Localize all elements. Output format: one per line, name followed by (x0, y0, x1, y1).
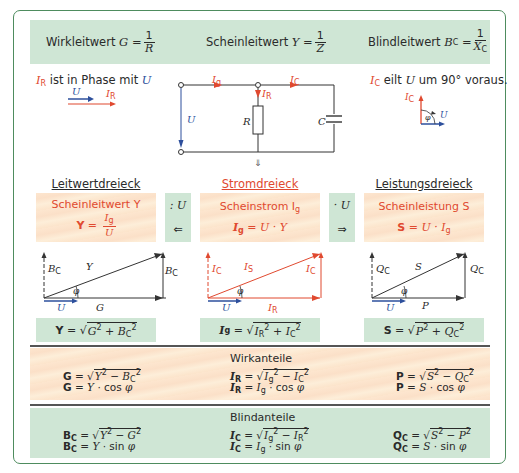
leitwert-phi: φ (73, 286, 79, 296)
leistung-s: S (415, 261, 422, 272)
strom-box-title: Scheinstrom Ig (200, 200, 320, 214)
stromdreieck-title: Stromdreieck (200, 177, 320, 191)
wirk-ir-cos: IR = Ig · cos φ (230, 380, 304, 398)
multiply-by-u-operator: · U ⇒ (329, 193, 355, 242)
strom-magnitude-formula: Ig = √IR2 + IC2 (200, 318, 320, 342)
leitwert-y: Y (86, 261, 93, 272)
down-arrow-icon: ⇓ (254, 158, 262, 168)
strom-u: U (222, 302, 230, 313)
wirkleitwert-definition: Wirkleitwert G = 1R (46, 25, 155, 59)
leistungsdreieck-title: Leistungsdreieck (364, 177, 484, 191)
leading-phasor-icon (410, 92, 460, 134)
blindanteile-title: Blindanteile (230, 411, 295, 424)
phase-note-left: IR ist in Phase mit U (36, 73, 152, 88)
circuit-label-ir: IR (262, 88, 272, 101)
fraction: 1XC (474, 28, 487, 56)
leitwert-box-formula: Y = IgU (36, 212, 156, 238)
leitwertdreieck-title: Leitwertdreieck (36, 177, 156, 191)
phasor-ic-label: IC (405, 92, 414, 104)
blind-bc-sin: BC = Y · sin φ (63, 439, 135, 457)
leistung-p: P (422, 300, 429, 311)
strom-ic-right: IC (306, 263, 316, 276)
strom-box-formula: Ig = U · Y (200, 221, 320, 235)
blind-ic-sin: IC = Ig · sin φ (230, 439, 301, 457)
strom-ic-left: IC (212, 263, 222, 276)
strom-phi: φ (237, 286, 243, 296)
circuit-label-c: C (318, 116, 326, 127)
phase-note-right: IC eilt U um 90° voraus. (370, 73, 508, 88)
leitwert-bc-left: BC (48, 263, 61, 276)
leitwert-box-title: Scheinleitwert Y (36, 198, 156, 211)
blindleitwert-definition: Blindleitwert BC = 1XC (368, 25, 487, 59)
blind-qc-sin: QC = S · sin φ (393, 439, 466, 457)
wirk-p-cos: P = S · cos φ (396, 380, 465, 395)
circuit-label-r: R (243, 116, 251, 127)
leistung-box-formula: S = U · Ig (364, 221, 484, 235)
phasor-ir-label: IR (106, 88, 116, 101)
leistung-magnitude-formula: S = √P2 + QC2 (364, 318, 484, 342)
fraction: 1Z (315, 30, 326, 55)
leistung-u: U (386, 302, 394, 313)
divide-by-u-operator: : U ⇐ (165, 193, 191, 242)
divider (30, 345, 490, 347)
phasor-u-label: U (72, 86, 80, 97)
left-arrow-icon: ⇐ (173, 223, 182, 236)
strom-ir: IR (268, 302, 278, 315)
wirkanteile-title: Wirkanteile (230, 352, 292, 365)
leistung-qc-right: QC (470, 263, 484, 276)
strom-triangle (200, 250, 330, 312)
leitwert-bc-right: BC (165, 265, 178, 278)
phasor-u-label-right: U (440, 110, 448, 120)
wirk-g-cos: G = Y · cos φ (63, 380, 132, 395)
right-arrow-icon: ⇒ (337, 223, 346, 236)
leitwert-u: U (57, 302, 65, 313)
leistung-box-title: Scheinleistung S (364, 200, 484, 213)
fraction: IgU (103, 212, 116, 238)
leistung-triangle (364, 250, 494, 312)
leitwert-g: G (96, 302, 104, 313)
leitwert-magnitude-formula: Y = √G2 + BC2 (36, 318, 156, 342)
circuit-label-ig: Ig (212, 74, 221, 87)
strom-ig: IS (244, 261, 253, 274)
scheinleitwert-definition: Scheinleitwert Y = 1Z (206, 25, 326, 59)
circuit-label-ic: IC (290, 74, 300, 87)
divider (30, 404, 490, 406)
phasor-phi-label: φ (425, 113, 431, 122)
leistung-phi: φ (401, 286, 407, 296)
circuit-label-u: U (187, 114, 195, 125)
fraction: 1R (144, 30, 155, 55)
leistung-qc-left: QC (376, 263, 390, 276)
